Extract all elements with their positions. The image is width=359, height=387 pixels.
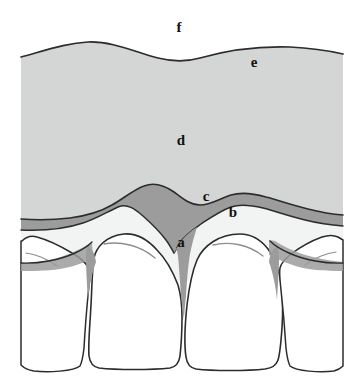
anatomy-illustration xyxy=(0,0,359,387)
tooth-right-central-incisor xyxy=(185,234,283,371)
gingiva-anatomy-figure: f e d c b a xyxy=(0,0,359,387)
alveolar-mucosa-region xyxy=(21,42,343,220)
